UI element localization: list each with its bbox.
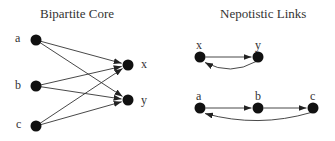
node-c	[31, 121, 42, 132]
edge-a-x	[36, 40, 122, 63]
node-b	[253, 103, 264, 114]
edge-c-a	[205, 113, 311, 121]
edge-b-x	[36, 66, 122, 86]
edge-c-y	[36, 102, 122, 126]
bipartite-edges	[36, 40, 123, 126]
node-y	[253, 52, 264, 63]
node-y	[123, 95, 134, 106]
node-b	[31, 81, 42, 92]
graph-canvas	[0, 0, 335, 141]
node-a	[31, 35, 42, 46]
node-x	[123, 60, 134, 71]
edge-y-x	[205, 62, 256, 70]
node-x	[195, 52, 206, 63]
node-a	[195, 103, 206, 114]
graph-nodes	[31, 35, 319, 132]
node-c	[308, 103, 319, 114]
